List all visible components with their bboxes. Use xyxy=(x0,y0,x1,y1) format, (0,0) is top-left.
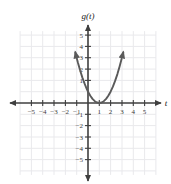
x-tick-label: −3 xyxy=(50,108,58,116)
y-axis-label: g(t) xyxy=(82,11,95,21)
y-tick-label: −4 xyxy=(76,145,84,153)
y-tick-label: −5 xyxy=(76,156,84,164)
x-tick-label: 5 xyxy=(143,108,147,116)
y-tick-label: 4 xyxy=(80,43,84,51)
x-tick-label: −4 xyxy=(39,108,47,116)
x-tick-label: −5 xyxy=(28,108,36,116)
y-tick-label: 5 xyxy=(80,32,84,40)
x-tick-label: 3 xyxy=(120,108,124,116)
y-tick-label: 3 xyxy=(80,54,84,62)
y-tick-label: −2 xyxy=(76,122,84,130)
coordinate-plane: −5 −4 −3 −2 −1 1 2 3 4 5 5 4 3 2 1 −1 −2… xyxy=(0,0,171,184)
y-tick-label: −1 xyxy=(76,111,84,119)
x-tick-label: 2 xyxy=(109,108,113,116)
x-tick-label: 4 xyxy=(132,108,136,116)
graph-figure: −5 −4 −3 −2 −1 1 2 3 4 5 5 4 3 2 1 −1 −2… xyxy=(0,0,171,184)
x-tick-label: −2 xyxy=(62,108,70,116)
x-tick-label: 1 xyxy=(98,108,102,116)
y-tick-label: −3 xyxy=(76,134,84,142)
